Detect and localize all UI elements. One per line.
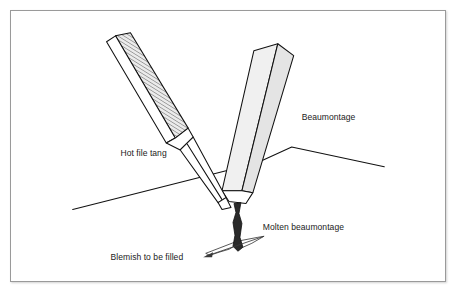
label-beaumontage: Beaumontage <box>302 112 356 122</box>
blemish-leader-arrowhead <box>203 252 213 257</box>
label-hot-file-tang: Hot file tang <box>120 148 166 158</box>
file-tang-crease <box>187 144 222 200</box>
beaumontage-repair-diagram: Hot file tang Beaumontage Molten beaumon… <box>11 11 445 281</box>
figure-frame: Hot file tang Beaumontage Molten beaumon… <box>10 10 446 282</box>
beaumontage-stick <box>222 44 294 204</box>
hot-file-tang <box>107 33 231 210</box>
file-blade-hatched-face <box>116 33 189 138</box>
label-molten-beaumontage: Molten beaumontage <box>263 222 344 232</box>
label-blemish-to-be-filled: Blemish to be filled <box>111 252 184 262</box>
